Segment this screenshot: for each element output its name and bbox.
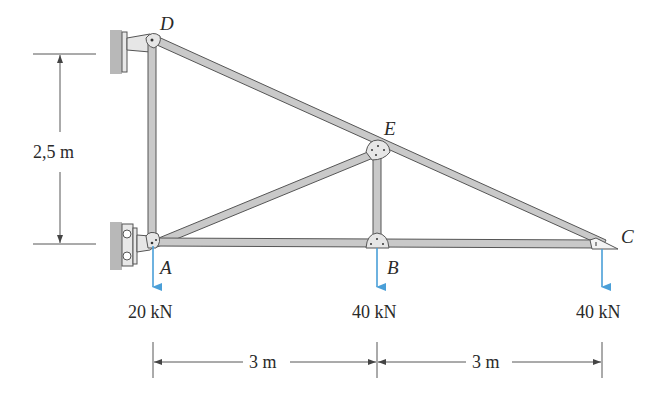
joint-label-B: B bbox=[387, 257, 399, 278]
load-label-A: 20 kN bbox=[128, 302, 173, 322]
truss-diagram: D A E B C 20 kN 40 kN 40 kN 2,5 m 3 m 3 … bbox=[0, 0, 671, 401]
gusset-E bbox=[366, 140, 390, 160]
load-label-B: 40 kN bbox=[352, 302, 397, 322]
span-dimensions bbox=[153, 342, 602, 378]
joint-label-E: E bbox=[383, 118, 396, 139]
span-AB-label: 3 m bbox=[249, 352, 277, 372]
member-EB bbox=[373, 154, 381, 240]
gusset-A bbox=[146, 232, 160, 248]
height-dimension-label: 2,5 m bbox=[33, 142, 74, 162]
member-AE bbox=[154, 149, 378, 247]
joint-label-A: A bbox=[158, 257, 172, 278]
span-BC-label: 3 m bbox=[472, 352, 500, 372]
joint-label-C: C bbox=[621, 226, 634, 247]
load-arrows bbox=[153, 246, 602, 287]
joint-label-D: D bbox=[159, 13, 174, 34]
gusset-B bbox=[366, 233, 389, 248]
load-label-C: 40 kN bbox=[576, 302, 621, 322]
member-AD bbox=[148, 44, 156, 238]
